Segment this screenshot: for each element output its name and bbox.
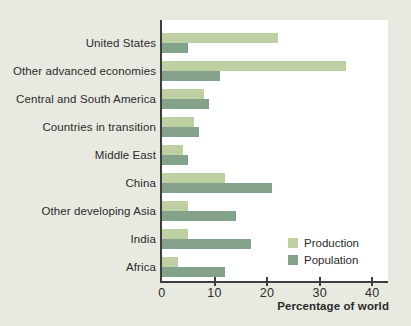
legend: Production Population [288, 234, 359, 268]
category-label-other-developing-asia: Other developing Asia [0, 205, 156, 217]
bar-production-central-and-south-america [162, 89, 204, 99]
legend-item-production: Production [288, 234, 359, 251]
category-label-central-and-south-america: Central and South America [0, 93, 156, 105]
bar-population-india [162, 239, 251, 249]
category-label-other-advanced-economies: Other advanced economies [0, 65, 156, 77]
x-tick-label-40: 40 [365, 286, 380, 300]
bar-production-other-advanced-economies [162, 61, 346, 71]
bar-production-other-developing-asia [162, 201, 188, 211]
category-label-countries-in-transition: Countries in transition [0, 121, 156, 133]
x-axis-title: Percentage of world [277, 300, 389, 312]
x-tick-mark-10 [214, 277, 216, 286]
bar-production-middle-east [162, 145, 183, 155]
category-label-united-states: United States [0, 37, 156, 49]
category-label-china: China [0, 177, 156, 189]
x-tick-label-0: 0 [158, 286, 165, 300]
bar-population-africa [162, 267, 225, 277]
bar-production-china [162, 173, 225, 183]
bar-population-middle-east [162, 155, 188, 165]
bar-production-united-states [162, 33, 278, 43]
legend-swatch-population [288, 255, 298, 265]
bar-production-africa [162, 257, 178, 267]
x-axis-line [160, 281, 388, 283]
bar-population-china [162, 183, 272, 193]
x-tick-mark-40 [371, 277, 373, 286]
legend-label-population: Population [304, 254, 358, 266]
bar-population-central-and-south-america [162, 99, 209, 109]
x-tick-label-10: 10 [207, 286, 222, 300]
legend-swatch-production [288, 238, 298, 248]
chart-figure: Production Population United StatesOther… [0, 0, 411, 326]
x-tick-label-30: 30 [312, 286, 327, 300]
bar-production-india [162, 229, 188, 239]
x-tick-mark-30 [319, 277, 321, 286]
bar-population-other-advanced-economies [162, 71, 220, 81]
bar-production-countries-in-transition [162, 117, 194, 127]
plot-area: Production Population [162, 20, 388, 281]
x-tick-mark-20 [266, 277, 268, 286]
bar-population-other-developing-asia [162, 211, 236, 221]
bar-population-united-states [162, 43, 188, 53]
legend-item-population: Population [288, 251, 359, 268]
legend-label-production: Production [304, 237, 359, 249]
x-tick-label-20: 20 [260, 286, 275, 300]
category-label-india: India [0, 233, 156, 245]
category-label-africa: Africa [0, 261, 156, 273]
bar-population-countries-in-transition [162, 127, 199, 137]
category-label-middle-east: Middle East [0, 149, 156, 161]
